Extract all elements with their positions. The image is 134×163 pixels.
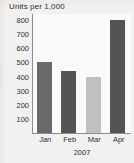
scan-edge-artifact: ··· bbox=[0, 60, 5, 94]
bar-slot-mar bbox=[81, 14, 106, 133]
bar-apr[interactable] bbox=[110, 20, 125, 133]
y-axis-tick-labels: 100200300400500600700800 bbox=[6, 14, 29, 134]
x-axis-tick-feb: Feb bbox=[58, 136, 83, 144]
y-axis-tick-700: 700 bbox=[6, 31, 29, 39]
x-axis-tick-mar: Mar bbox=[82, 136, 107, 144]
bar-slot-feb bbox=[57, 14, 82, 133]
y-axis-tick-600: 600 bbox=[6, 45, 29, 53]
chart-screenshot: Units per 1,000 100200300400500600700800… bbox=[0, 0, 134, 163]
x-axis-tick-apr: Apr bbox=[107, 136, 132, 144]
y-axis-tick-200: 200 bbox=[6, 102, 29, 110]
y-axis-tick-100: 100 bbox=[6, 116, 29, 124]
plot-area bbox=[32, 14, 131, 134]
bar-series bbox=[32, 14, 130, 133]
x-axis-tick-labels: JanFebMarApr bbox=[33, 136, 131, 147]
bar-slot-apr bbox=[106, 14, 131, 133]
x-axis-title: 2007 bbox=[33, 148, 131, 157]
bar-mar[interactable] bbox=[86, 77, 101, 133]
bar-jan[interactable] bbox=[37, 62, 52, 133]
bar-slot-jan bbox=[32, 14, 57, 133]
chart-title: Units per 1,000 bbox=[9, 2, 65, 11]
y-axis-tick-500: 500 bbox=[6, 59, 29, 67]
x-axis-tick-jan: Jan bbox=[33, 136, 58, 144]
bar-feb[interactable] bbox=[61, 71, 76, 133]
y-axis-tick-300: 300 bbox=[6, 88, 29, 96]
y-axis-tick-400: 400 bbox=[6, 74, 29, 82]
y-axis-tick-800: 800 bbox=[6, 17, 29, 25]
